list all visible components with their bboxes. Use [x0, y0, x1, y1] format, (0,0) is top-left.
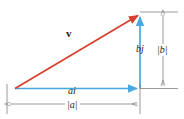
dimension-b-label: |b| — [156, 44, 169, 56]
component-ai-label: ai — [68, 86, 76, 96]
dimension-a-label: |a| — [65, 100, 80, 110]
figure-canvas — [0, 0, 184, 119]
vector-decomposition-figure: v ai bj |a| |b| — [0, 0, 184, 119]
component-bj-label: bj — [136, 44, 144, 54]
vector-v-arrow — [15, 16, 138, 89]
vector-v-label: v — [66, 28, 72, 39]
